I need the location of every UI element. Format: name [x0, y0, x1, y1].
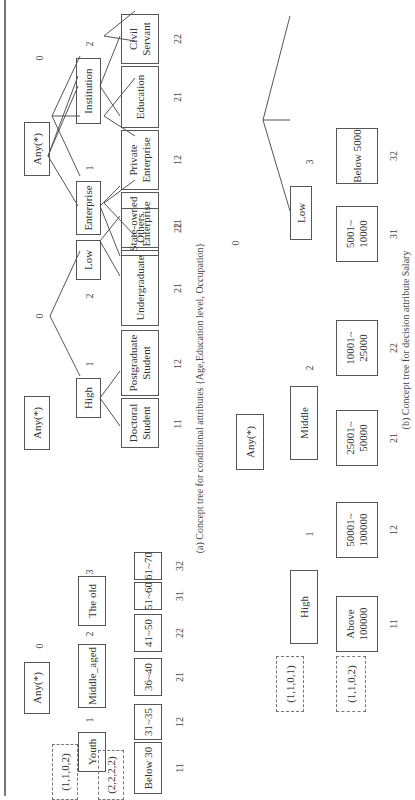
age-node-middle-aged: Middle_aged	[78, 644, 106, 708]
occupation-node-institution: Institution	[76, 58, 101, 124]
salary-root-level: 0	[230, 241, 241, 246]
salary-leaf-below-5000: Below 5000	[336, 128, 378, 184]
salary-leaf-25001-50000: 25001~ 50000	[336, 410, 378, 466]
salary-root-node: Any(*)	[236, 414, 264, 470]
caption-a: (a) Concept tree for conditional attribu…	[194, 243, 205, 554]
salary-node-low: Low	[290, 186, 312, 240]
age-code-11: 11	[174, 763, 185, 773]
salary-middle-level: 2	[304, 366, 315, 371]
age-marker-1102: (1,1,0,2)	[52, 744, 78, 800]
occupation-code-12: 12	[172, 155, 183, 165]
age-marker-2222: (2,2,2,2)	[98, 750, 124, 800]
salary-code-21: 21	[388, 433, 399, 443]
occupation-enterprise-level: 1	[84, 166, 95, 171]
education-node-low: Low	[76, 240, 101, 280]
age-code-12: 12	[174, 717, 185, 727]
education-root-node: Any(*)	[24, 396, 50, 450]
salary-code-32: 32	[388, 151, 399, 161]
salary-node-high: High	[290, 570, 318, 644]
age-middle-level: 2	[84, 632, 95, 637]
salary-node-middle: Middle	[290, 386, 318, 460]
education-code-22: 22	[172, 223, 183, 233]
salary-code-11: 11	[388, 619, 399, 629]
age-leaf-41-50: 41~50	[134, 614, 162, 652]
occupation-root-level: 0	[34, 56, 45, 61]
salary-marker-1101: (1,1,0,1)	[276, 656, 304, 712]
occupation-leaf-education: Education	[121, 66, 159, 128]
education-leaf-undergraduate: Undergraduate	[121, 250, 159, 326]
salary-leaf-50001-100000: 50001~ 100000	[336, 502, 378, 558]
page-header-rule	[4, 0, 6, 796]
age-leaf-36-40: 36~40	[134, 658, 162, 696]
age-old-level: 3	[84, 570, 95, 575]
salary-high-level: 1	[304, 532, 315, 537]
occupation-code-21: 21	[172, 92, 183, 102]
salary-marker-1102: (1,1,0,2)	[336, 656, 366, 712]
salary-leaf-10001-25000: 10001~ 25000	[336, 320, 378, 376]
caption-b: (b) Concept tree for decision attribute …	[400, 251, 411, 430]
age-leaf-61-70: 61~70	[134, 552, 162, 580]
age-leaf-below-30: Below 30	[134, 742, 162, 794]
education-high-level: 1	[84, 362, 95, 367]
age-code-22: 22	[174, 628, 185, 638]
education-leaf-others: Others	[121, 208, 159, 248]
salary-code-31: 31	[388, 229, 399, 239]
occupation-leaf-civil-servant: Civil Servant	[121, 14, 159, 64]
occupation-leaf-private: Private Enterprise	[121, 130, 159, 190]
salary-low-level: 3	[304, 160, 315, 165]
age-root-level: 0	[34, 644, 45, 649]
education-code-11: 11	[172, 419, 183, 429]
occupation-root-node: Any(*)	[24, 122, 50, 176]
occupation-code-22: 22	[172, 34, 183, 44]
education-low-level: 2	[84, 294, 95, 299]
education-code-12: 12	[172, 359, 183, 369]
salary-code-22: 22	[388, 343, 399, 353]
salary-code-12: 12	[388, 525, 399, 535]
age-leaf-31-35: 31~35	[134, 704, 162, 740]
education-root-level: 0	[34, 314, 45, 319]
age-youth-level: 1	[84, 718, 95, 723]
education-leaf-doctoral: Doctoral Student	[121, 398, 159, 448]
age-code-32: 32	[174, 561, 185, 571]
education-code-21: 21	[172, 283, 183, 293]
education-leaf-postgraduate: Postgraduate Student	[121, 330, 159, 396]
age-root-node: Any(*)	[24, 662, 50, 714]
age-node-the-old: The old	[78, 576, 106, 626]
occupation-institution-level: 2	[84, 42, 95, 47]
occupation-node-enterprise: Enterprise	[76, 181, 101, 235]
salary-leaf-5001-10000: 5001~ 10000	[336, 206, 378, 262]
education-node-high: High	[76, 378, 101, 418]
salary-leaf-above-100000: Above 100000	[336, 596, 378, 652]
age-code-31: 31	[174, 591, 185, 601]
age-code-21: 21	[174, 672, 185, 682]
age-leaf-51-60: 51~60	[134, 582, 162, 610]
